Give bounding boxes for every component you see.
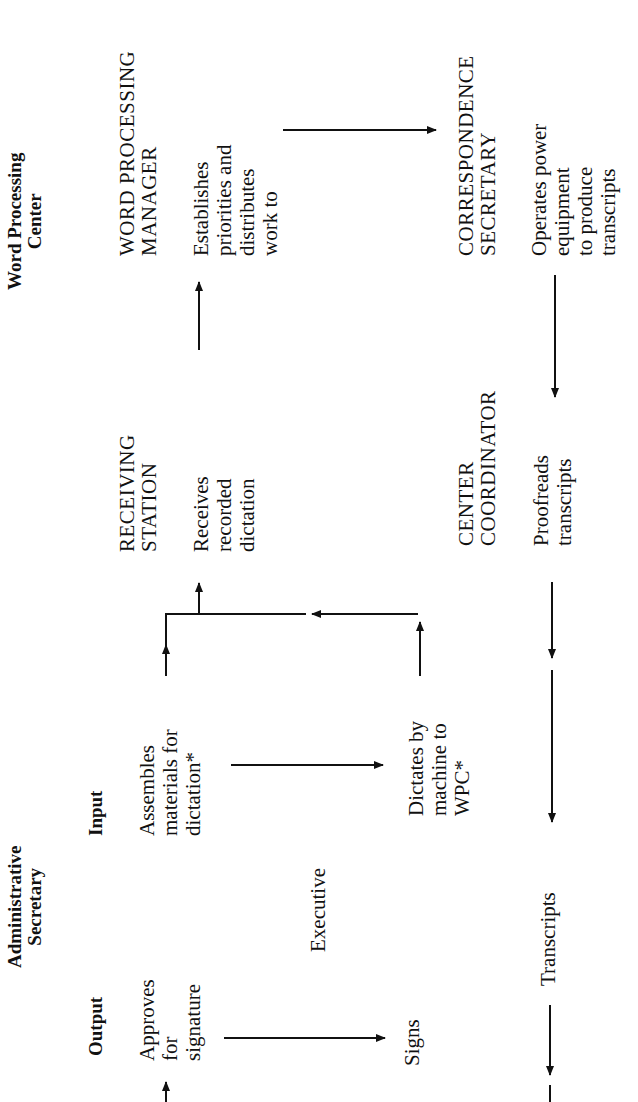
node-desc-receiving-station: Receives recorded dictation: [190, 476, 259, 552]
section-title-line: Administrative: [5, 846, 25, 968]
node-title-correspondence-secretary: CORRESPONDENCE SECRETARY: [455, 55, 499, 256]
flow-diagram: Word Processing Center WORD PROCESSING M…: [0, 0, 638, 1102]
node-desc-line: dictation*: [182, 729, 205, 836]
node-desc-line: Dictates by: [405, 721, 428, 816]
node-title-receiving-station: RECEIVING STATION: [116, 434, 160, 552]
section-title-word-processing-center: Word Processing Center: [5, 153, 45, 290]
node-title-line: WORD PROCESSING: [116, 51, 138, 256]
node-desc-line: machine to: [428, 721, 451, 816]
node-desc-line: materials for: [159, 729, 182, 836]
output-heading-text: Output: [86, 997, 106, 1056]
node-desc-line: Establishes: [190, 145, 213, 256]
input-heading-text: Input: [86, 791, 106, 836]
signs-label-text: Signs: [401, 1019, 424, 1066]
node-desc-line: equipment: [551, 124, 574, 256]
node-desc-line: WPC*: [451, 721, 474, 816]
node-title-wp-manager: WORD PROCESSING MANAGER: [116, 51, 160, 256]
node-desc-line: signature: [182, 979, 205, 1061]
node-title-line: SECRETARY: [477, 55, 499, 256]
section-title-line: Center: [25, 153, 45, 290]
node-desc-output: Approves for signature: [136, 979, 205, 1061]
node-desc-line: Assembles: [136, 729, 159, 836]
node-desc-line: Approves: [136, 979, 159, 1061]
node-desc-line: distributes: [236, 145, 259, 256]
node-title-line: RECEIVING: [116, 434, 138, 552]
node-desc-line: priorities and: [213, 145, 236, 256]
node-desc-line: recorded: [213, 476, 236, 552]
node-desc-line: Operates power: [528, 124, 551, 256]
node-desc-line: Receives: [190, 476, 213, 552]
executive-label: Executive: [307, 868, 330, 952]
node-desc-center-coordinator: Proofreads transcripts: [530, 455, 576, 546]
node-title-line: CORRESPONDENCE: [455, 55, 477, 256]
transcripts-label: Transcripts: [537, 892, 560, 986]
node-desc-line: dictation: [236, 476, 259, 552]
output-heading: Output: [86, 997, 106, 1056]
signs-label: Signs: [401, 1019, 424, 1066]
node-title-line: CENTER: [455, 390, 477, 546]
section-title-line: Secretary: [25, 846, 45, 968]
node-title-line: MANAGER: [138, 51, 160, 256]
node-title-center-coordinator: CENTER COORDINATOR: [455, 390, 499, 546]
node-desc-line: transcripts: [597, 124, 620, 256]
node-desc-dictates: Dictates by machine to WPC*: [405, 721, 474, 816]
transcripts-label-text: Transcripts: [537, 892, 560, 986]
node-desc-correspondence-secretary: Operates power equipment to produce tran…: [528, 124, 620, 256]
node-desc-wp-manager: Establishes priorities and distributes w…: [190, 145, 282, 256]
node-desc-line: to produce: [574, 124, 597, 256]
input-heading: Input: [86, 791, 106, 836]
node-desc-line: Proofreads: [530, 455, 553, 546]
executive-label-text: Executive: [307, 868, 330, 952]
node-title-line: COORDINATOR: [477, 390, 499, 546]
section-title-line: Word Processing: [5, 153, 25, 290]
node-title-line: STATION: [138, 434, 160, 552]
node-desc-line: transcripts: [553, 455, 576, 546]
section-title-administrative-secretary: Administrative Secretary: [5, 846, 45, 968]
node-desc-line: for: [159, 979, 182, 1061]
node-desc-line: work to: [259, 145, 282, 256]
node-desc-input: Assembles materials for dictation*: [136, 729, 205, 836]
